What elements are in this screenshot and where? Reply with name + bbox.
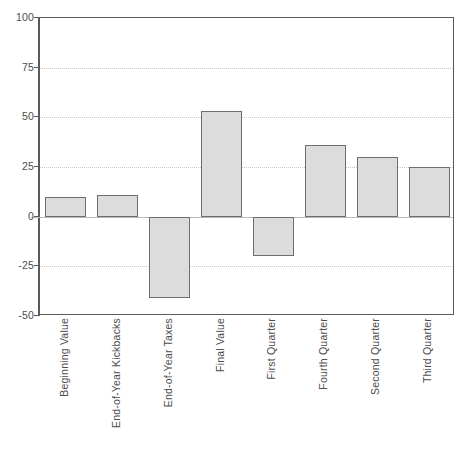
x-axis-labels: Beginning ValueEnd-of-Year KickbacksEnd-… [39,318,454,453]
y-tick-label: -50 [18,310,34,321]
bar [201,111,242,216]
x-axis-label: Fourth Quarter [318,318,329,390]
y-tick-label: 50 [22,111,34,122]
y-tick-label: 0 [28,210,34,221]
x-axis-label: Second Quarter [370,318,381,395]
chart-title-clipped [200,0,210,4]
y-tick-mark [34,265,40,266]
x-axis-label: Third Quarter [422,318,433,383]
y-tick-label: 25 [22,161,34,172]
x-axis-label: Final Value [215,318,226,372]
bar [409,167,450,217]
bar [97,195,138,217]
plot-area [39,17,454,315]
y-tick-mark [34,166,40,167]
chart-container: 1007550250-25-50 Beginning ValueEnd-of-Y… [0,0,468,459]
bar-series [40,18,453,314]
y-tick-mark [34,216,40,217]
bar [149,217,190,298]
y-tick-mark [34,67,40,68]
y-tick-mark [34,17,40,18]
y-tick-mark [34,116,40,117]
bar [45,197,86,217]
x-axis-label: End-of-Year Taxes [163,318,174,407]
y-tick-label: -25 [18,260,34,271]
x-axis-label: End-of-Year Kickbacks [111,318,122,428]
bar [357,157,398,217]
x-axis-label: First Quarter [266,318,277,380]
bar [253,217,294,257]
bar [305,145,346,217]
y-tick-label: 100 [16,12,34,23]
y-tick-mark [34,315,40,316]
x-axis-label: Beginning Value [59,318,70,397]
y-tick-label: 75 [22,61,34,72]
